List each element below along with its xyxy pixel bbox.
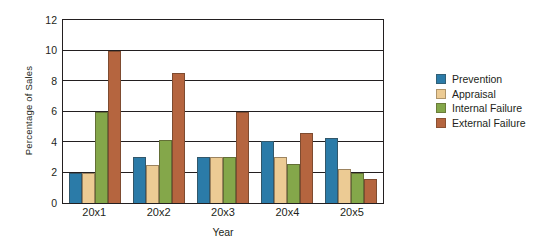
bar xyxy=(261,141,274,203)
y-axis-tick-label: 10 xyxy=(17,45,57,56)
legend-swatch-icon xyxy=(436,118,446,128)
legend-item: Internal Failure xyxy=(436,101,526,116)
plot-area: 121086420 xyxy=(62,19,384,204)
bar xyxy=(274,157,287,203)
bar xyxy=(159,140,172,203)
x-axis-tick-label: 20x4 xyxy=(255,206,319,218)
bar xyxy=(108,51,121,204)
x-axis-tick-label: 20x2 xyxy=(126,206,190,218)
y-axis-tick-label: 8 xyxy=(17,76,57,87)
bar-chart-figure: Percentage of Sales 121086420 20x120x220… xyxy=(0,0,550,251)
bar-group xyxy=(255,20,319,203)
legend-label: Prevention xyxy=(452,73,502,85)
y-axis-tick-label: 12 xyxy=(17,15,57,26)
legend-item: External Failure xyxy=(436,116,526,131)
bar xyxy=(223,157,236,203)
bar-group xyxy=(127,20,191,203)
bar xyxy=(133,157,146,203)
legend-swatch-icon xyxy=(436,74,446,84)
y-axis-tick-label: 4 xyxy=(17,137,57,148)
legend-label: Internal Failure xyxy=(452,102,522,114)
bar-group xyxy=(319,20,383,203)
legend-swatch-icon xyxy=(436,103,446,113)
x-axis-tick-label: 20x1 xyxy=(62,206,126,218)
bar xyxy=(287,164,300,203)
y-axis-tick-label: 0 xyxy=(17,198,57,209)
chart-legend: PreventionAppraisalInternal FailureExter… xyxy=(436,72,526,130)
legend-item: Prevention xyxy=(436,72,526,87)
bar-group xyxy=(191,20,255,203)
x-axis-tick-label: 20x3 xyxy=(191,206,255,218)
bar xyxy=(338,169,351,203)
bar xyxy=(172,73,185,203)
bar xyxy=(95,112,108,204)
y-axis-tick-label: 2 xyxy=(17,167,57,178)
legend-label: External Failure xyxy=(452,117,526,129)
bar xyxy=(146,165,159,203)
bar-groups xyxy=(63,20,383,203)
x-axis-title: Year xyxy=(62,226,384,238)
legend-swatch-icon xyxy=(436,89,446,99)
bar xyxy=(236,112,249,204)
legend-label: Appraisal xyxy=(452,88,496,100)
bar xyxy=(82,173,95,204)
x-axis-tick-label: 20x5 xyxy=(320,206,384,218)
bar xyxy=(300,133,313,203)
legend-item: Appraisal xyxy=(436,87,526,102)
bar xyxy=(210,157,223,203)
bar xyxy=(197,157,210,203)
bar-group xyxy=(63,20,127,203)
x-axis-tick-labels: 20x120x220x320x420x5 xyxy=(62,206,384,218)
bar xyxy=(364,179,377,203)
bar xyxy=(69,173,82,204)
y-axis-tick-label: 6 xyxy=(17,106,57,117)
bar xyxy=(325,138,338,203)
bar xyxy=(351,173,364,204)
